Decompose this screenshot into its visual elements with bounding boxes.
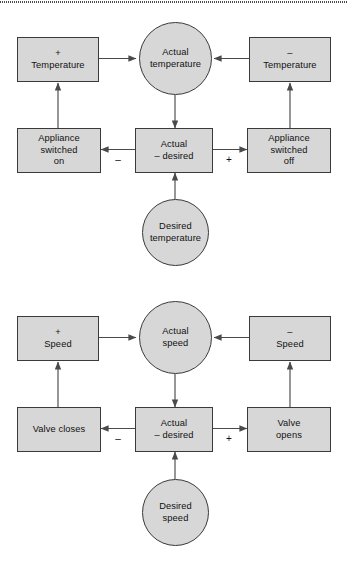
node-appliance-switched-on-label: Appliance switched on	[38, 133, 80, 167]
node-actual-minus-desired-speed: Actual – desired	[135, 407, 213, 452]
node-plus-temperature-label: + Temperature	[31, 48, 84, 71]
node-minus-temperature-label: – Temperature	[263, 48, 316, 71]
node-valve-opens-label: Valve opens	[276, 418, 302, 441]
node-minus-temperature: – Temperature	[249, 37, 331, 82]
node-plus-speed-label: + Speed	[44, 327, 71, 350]
node-appliance-switched-off: Appliance switched off	[247, 128, 331, 173]
node-desired-temperature-label: Desired temperature	[150, 221, 201, 244]
node-actual-speed-label: Actual speed	[162, 326, 188, 349]
node-actual-minus-desired-temperature-label: Actual – desired	[154, 139, 193, 162]
node-actual-minus-desired-temperature: Actual – desired	[135, 128, 213, 173]
edge-label-speed-right: +	[222, 433, 236, 444]
node-valve-closes: Valve closes	[17, 407, 101, 452]
node-desired-temperature: Desired temperature	[142, 199, 209, 266]
edge-label-speed-left: –	[111, 433, 125, 444]
node-valve-closes-label: Valve closes	[33, 424, 86, 435]
node-minus-speed-label: – Speed	[276, 327, 303, 350]
node-actual-temperature: Actual temperature	[139, 22, 212, 95]
node-actual-minus-desired-speed-label: Actual – desired	[154, 418, 193, 441]
node-valve-opens: Valve opens	[247, 407, 331, 452]
node-actual-temperature-label: Actual temperature	[150, 47, 201, 70]
diagram-page: + Temperature Actual temperature – Tempe…	[0, 0, 348, 565]
node-appliance-switched-off-label: Appliance switched off	[268, 133, 310, 167]
node-plus-speed: + Speed	[17, 316, 99, 361]
node-desired-speed-label: Desired speed	[159, 501, 192, 524]
edge-label-temperature-left: –	[111, 154, 125, 165]
edge-label-temperature-right: +	[222, 154, 236, 165]
node-plus-temperature: + Temperature	[17, 37, 99, 82]
node-desired-speed: Desired speed	[142, 479, 209, 546]
node-minus-speed: – Speed	[249, 316, 331, 361]
node-appliance-switched-on: Appliance switched on	[17, 128, 101, 173]
node-actual-speed: Actual speed	[139, 301, 212, 374]
